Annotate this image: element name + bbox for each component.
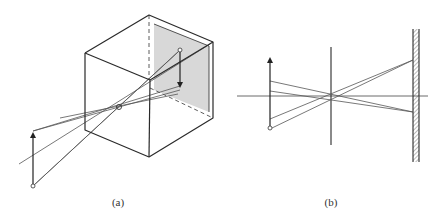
object-base-point <box>31 184 35 188</box>
object-base-point-b <box>268 126 272 130</box>
panel-a-label: (a) <box>112 196 124 208</box>
image-base-point <box>178 48 182 52</box>
screen-hatch <box>413 29 419 162</box>
pinhole-diagram <box>0 0 443 218</box>
rays-b <box>270 60 413 128</box>
panel-b-label: (b) <box>325 196 338 208</box>
panel-b <box>237 29 428 162</box>
panel-a <box>19 15 213 188</box>
